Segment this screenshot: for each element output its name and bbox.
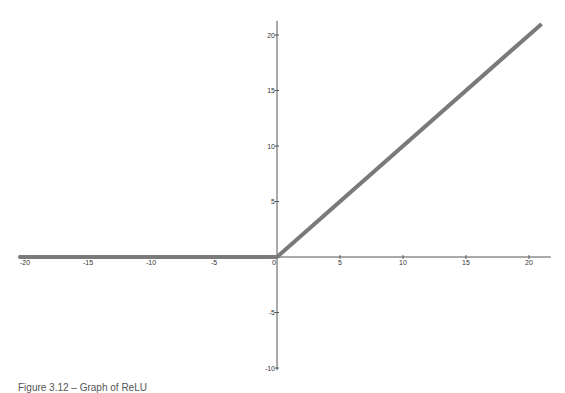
y-tick-label: 5 xyxy=(271,198,275,205)
x-tick-label: 0 xyxy=(272,259,276,266)
y-tick-label: 20 xyxy=(267,32,275,39)
x-tick-label: 15 xyxy=(462,259,470,266)
x-tick-label: 10 xyxy=(399,259,407,266)
x-tick-label: -5 xyxy=(211,259,217,266)
tick-marks: -20-15-10-505101520-10-55101520 xyxy=(20,32,533,372)
x-tick-label: 20 xyxy=(525,259,533,266)
y-tick-label: -5 xyxy=(269,309,275,316)
y-tick-label: -10 xyxy=(265,365,275,372)
axes xyxy=(18,21,551,370)
x-tick-label: 5 xyxy=(338,259,342,266)
figure-caption: Figure 3.12 – Graph of ReLU xyxy=(18,382,147,393)
relu-line xyxy=(19,24,542,257)
series-layer xyxy=(19,24,542,257)
y-tick-label: 10 xyxy=(267,143,275,150)
y-tick-label: 15 xyxy=(267,87,275,94)
x-tick-label: -10 xyxy=(146,259,156,266)
x-tick-label: -15 xyxy=(83,259,93,266)
x-tick-label: -20 xyxy=(20,259,30,266)
